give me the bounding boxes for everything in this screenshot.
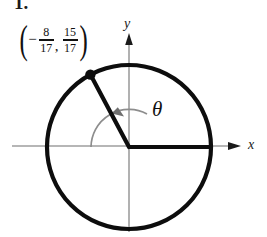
terminal-point-dot (85, 69, 95, 79)
diagram-canvas (0, 0, 267, 237)
figure-root: 1. ( − 8 17 , 15 17 ) y x θ (0, 0, 267, 237)
y-axis-arrowhead-icon (125, 33, 133, 45)
terminal-side-ray (90, 75, 129, 147)
x-axis-arrowhead-icon (228, 142, 241, 150)
